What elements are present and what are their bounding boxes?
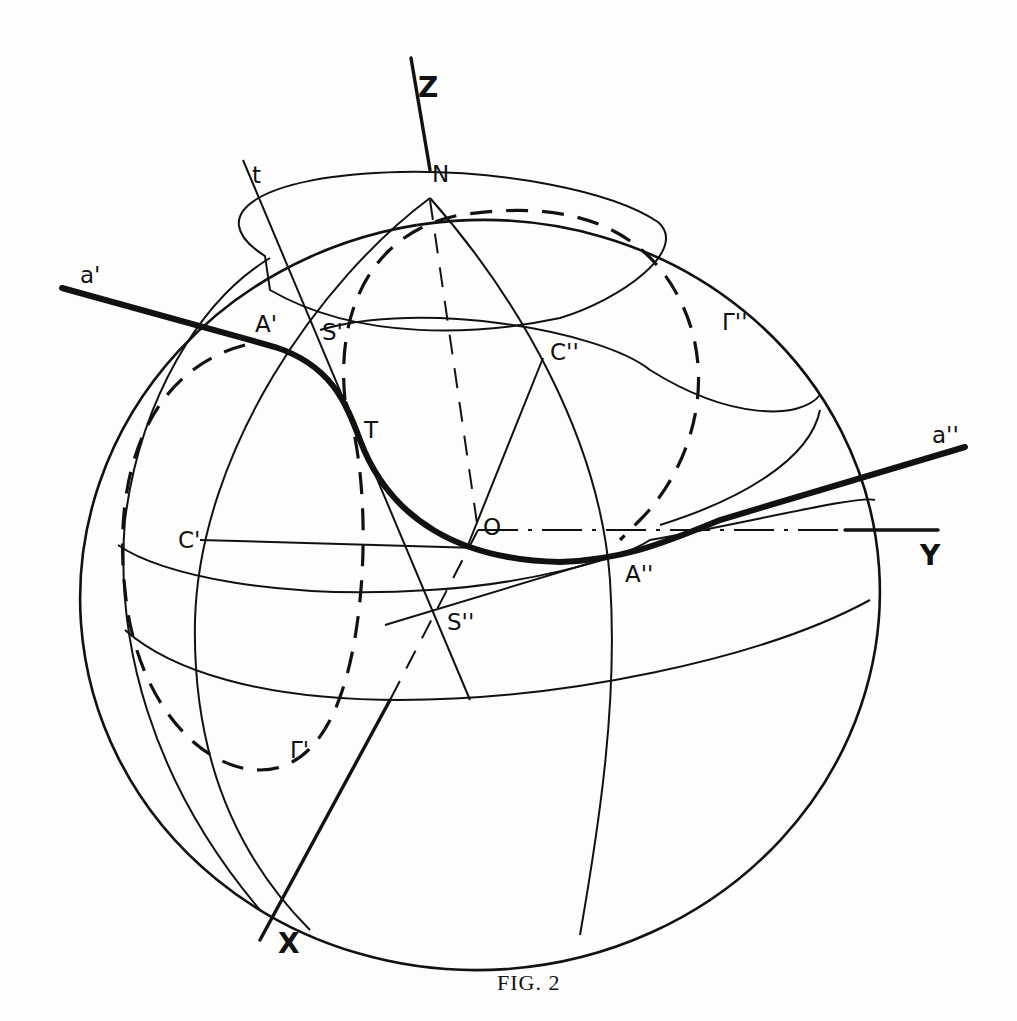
point-o-label: O [483,514,501,540]
o-to-c-double-prime [468,358,543,545]
point-a-prime-label: A' [255,311,277,337]
y-axis-label: Y [919,539,941,572]
point-n-label: N [432,161,449,187]
s-double-prime-line [385,560,600,625]
z-axis-hidden [430,200,478,530]
gamma-double-prime-circle [344,210,699,540]
curve-a-prime-to-a-double-prime [62,288,965,562]
z-axis-label: Z [418,71,438,104]
line-t-label: t [252,162,261,188]
sphere-outline [55,193,905,997]
meridian-right-inner [660,410,820,525]
point-c-double-prime-label: C'' [550,339,579,365]
figure-caption: FIG. 2 [497,970,560,995]
x-axis [260,700,390,940]
point-s-prime-label: S' [322,319,343,345]
gamma-double-prime-label: Γ'' [722,309,747,335]
gamma-prime-circle [123,345,364,770]
polar-cap-circle [239,172,666,331]
latitude-circle-lower [125,600,870,700]
point-a-double-prime-label: A'' [625,561,653,587]
point-t-label: T [363,417,379,443]
c-prime-to-o [200,540,478,548]
line-a-prime-label: a' [80,262,100,288]
gamma-prime-label: Γ' [290,737,309,763]
sphere-diagram: Z Y X N O A' A'' S' S'' C' C'' T a' a'' … [0,0,1017,1021]
line-a-double-prime-label: a'' [932,422,959,448]
x-axis-label: X [278,927,300,960]
point-s-double-prime-label: S'' [447,609,474,635]
meridian-left [195,198,430,930]
point-c-prime-label: C' [178,527,200,553]
